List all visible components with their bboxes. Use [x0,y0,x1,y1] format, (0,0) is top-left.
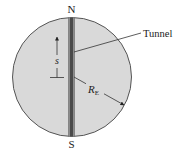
radius-label: RE [86,82,104,97]
earth-tunnel-diagram: N S Tunnel s RE [0,0,189,155]
south-label: S [68,138,74,150]
tunnel-label: Tunnel [143,28,172,39]
radius-label-subscript: E [95,89,99,97]
tunnel [69,18,75,137]
north-label: N [68,3,76,15]
displacement-label: s [55,55,59,66]
